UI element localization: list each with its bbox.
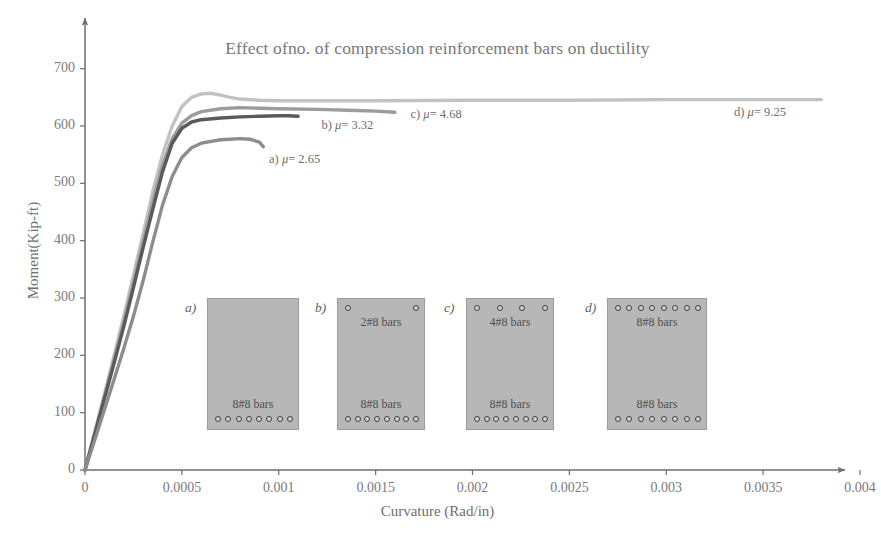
rebar-dot: [413, 416, 419, 422]
top-bars-caption: 4#8 bars: [467, 315, 553, 330]
x-tick-label: 0: [50, 480, 120, 496]
rebar-dot: [532, 416, 538, 422]
section-concrete-box: 8#8 bars8#8 bars: [607, 298, 707, 430]
bottom-bars-caption: 8#8 bars: [208, 397, 298, 412]
y-tick-label: 0: [29, 461, 75, 477]
x-tick-label: 0.0025: [534, 480, 604, 496]
rebar-dot: [615, 305, 621, 311]
rebar-dot: [497, 305, 503, 311]
x-axis-label: Curvature (Rad/in): [0, 503, 875, 520]
y-tick-label: 700: [29, 60, 75, 76]
rebar-dot: [513, 416, 519, 422]
rebar-dot: [403, 416, 409, 422]
section-concrete-box: 8#8 bars: [207, 298, 299, 430]
rebar-dot: [626, 416, 632, 422]
section-diagram-c: c)4#8 bars8#8 bars: [466, 298, 554, 430]
section-concrete-box: 4#8 bars8#8 bars: [466, 298, 554, 430]
rebar-dot: [256, 416, 262, 422]
section-letter: c): [444, 300, 455, 316]
rebar-dot: [287, 416, 293, 422]
section-concrete-box: 2#8 bars8#8 bars: [337, 298, 425, 430]
rebar-dot: [649, 416, 655, 422]
curve-d: [85, 93, 821, 470]
rebar-dot: [355, 416, 361, 422]
rebar-dot: [519, 305, 525, 311]
rebar-dot: [474, 305, 480, 311]
rebar-dot: [345, 305, 351, 311]
y-tick-label: 600: [29, 117, 75, 133]
rebar-row: [345, 304, 419, 312]
x-tick-label: 0.0015: [341, 480, 411, 496]
rebar-dot: [484, 416, 490, 422]
rebar-dot: [384, 416, 390, 422]
bottom-bars-caption: 8#8 bars: [608, 397, 706, 412]
rebar-dot: [374, 416, 380, 422]
rebar-dot: [615, 416, 621, 422]
curves: [85, 93, 821, 470]
mu-symbol: μ: [282, 152, 288, 166]
bottom-bars-caption: 8#8 bars: [338, 397, 424, 412]
rebar-dot: [236, 416, 242, 422]
y-tick-label: 300: [29, 289, 75, 305]
rebar-dot: [503, 416, 509, 422]
rebar-dot: [413, 305, 419, 311]
rebar-dot: [474, 416, 480, 422]
x-tick-label: 0.0005: [147, 480, 217, 496]
section-letter: d): [585, 300, 596, 316]
figure-caption-partial: [8, 524, 528, 537]
rebar-dot: [626, 305, 632, 311]
rebar-dot: [695, 305, 701, 311]
rebar-row: [615, 415, 701, 423]
y-tick-label: 200: [29, 346, 75, 362]
rebar-dot: [225, 416, 231, 422]
rebar-dot: [246, 416, 252, 422]
rebar-dot: [661, 416, 667, 422]
rebar-dot: [649, 305, 655, 311]
x-tick-label: 0.003: [631, 480, 701, 496]
rebar-dot: [684, 416, 690, 422]
rebar-dot: [493, 416, 499, 422]
y-tick-label: 100: [29, 404, 75, 420]
mu-symbol: μ: [423, 107, 429, 121]
x-tick-label: 0.004: [825, 480, 881, 496]
curve-label-a: a) μ= 2.65: [269, 152, 320, 167]
rebar-dot: [638, 305, 644, 311]
curve-label-c: c) μ= 4.68: [411, 107, 462, 122]
top-bars-caption: 2#8 bars: [338, 315, 424, 330]
rebar-dot: [215, 416, 221, 422]
top-bars-caption: 8#8 bars: [608, 315, 706, 330]
x-tick-label: 0.0035: [728, 480, 798, 496]
mu-symbol: μ: [748, 105, 754, 119]
rebar-dot: [661, 305, 667, 311]
rebar-dot: [394, 416, 400, 422]
rebar-dot: [277, 416, 283, 422]
y-tick-label: 500: [29, 174, 75, 190]
section-letter: b): [315, 300, 326, 316]
section-letter: a): [185, 300, 196, 316]
section-diagram-d: d)8#8 bars8#8 bars: [607, 298, 707, 430]
rebar-row: [474, 304, 548, 312]
rebar-dot: [638, 416, 644, 422]
rebar-dot: [523, 416, 529, 422]
bottom-bars-caption: 8#8 bars: [467, 397, 553, 412]
rebar-dot: [672, 416, 678, 422]
x-tick-label: 0.002: [438, 480, 508, 496]
rebar-dot: [542, 305, 548, 311]
rebar-dot: [684, 305, 690, 311]
rebar-dot: [542, 416, 548, 422]
y-axis-label: Moment(Kip-ft): [25, 171, 42, 331]
rebar-dot: [672, 305, 678, 311]
rebar-dot: [266, 416, 272, 422]
x-tick-label: 0.001: [244, 480, 314, 496]
section-diagram-b: b)2#8 bars8#8 bars: [337, 298, 425, 430]
rebar-row: [345, 415, 419, 423]
mu-symbol: μ: [335, 118, 341, 132]
rebar-row: [215, 415, 293, 423]
curve-label-d: d) μ= 9.25: [734, 105, 786, 120]
rebar-row: [615, 304, 701, 312]
y-tick-label: 400: [29, 232, 75, 248]
curve-label-b: b) μ= 3.32: [321, 118, 373, 133]
rebar-dot: [364, 416, 370, 422]
